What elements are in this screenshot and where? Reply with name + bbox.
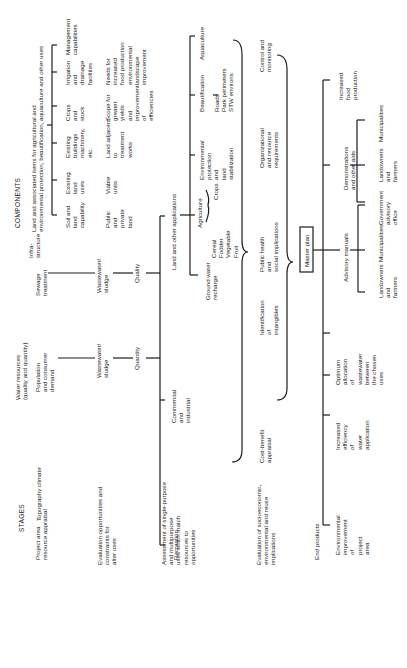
beautification-list: Roads Park perimeters STW environs [213,68,235,112]
end-increased-efficiency: Increased efficiency of water applicatio… [334,420,370,450]
advisory-child: Landowners and farmers [377,264,399,298]
agriculture: Agriculture [196,198,203,228]
quantity: Quantity [133,347,140,370]
land-associated-items: Land and associated items for agricultur… [30,46,44,232]
groundwater-recharge: Ground water recharge [204,263,218,301]
quality: Quality [133,264,140,283]
end-increased-food: Increased food production [337,71,359,100]
environmental-protection: Environmental protection and land stabil… [198,140,234,180]
organizational-requirements: Organizational and resource requirements [258,128,280,168]
aquaculture: Aquaculture [198,27,205,60]
wastewater-sludge-right: Wastewater/ sludge [95,259,109,293]
crops: Crops [212,183,219,200]
advisory-child: Municipalities [377,225,384,262]
land-item: Existing buildings machinery, etc. [64,128,93,158]
control-monitoring: Control and monitoring [258,40,272,72]
land-subitem: Public and private land [104,209,133,228]
infrastructure: Infra- structure [27,234,41,258]
commercial-industrial: Commercial and industrial [170,390,192,423]
demonstrations: Demonstrations and other aids [342,147,356,190]
components-header: COMPONENTS [14,178,21,228]
end-optimum-allocation: Optimum allocation of wastewater between… [334,354,384,385]
master-plan-box: Master plan [303,235,310,267]
stage-evaluation-implications: Evaluation of socioeconomic, environment… [255,485,277,565]
land-subitem: Viable units [104,177,118,194]
stage-evaluation-opportunities: Evaluation opportunities and constraints… [96,487,118,565]
beautification: Beautification [198,75,205,112]
population-demand: Population and consumer demand [34,353,56,392]
land-item: Existing land uses [64,172,86,194]
public-health: Public health and social implications [258,222,280,272]
advisory-manuals: Advisory manuals [342,233,349,282]
land-item: Management capabilities [64,19,78,55]
land-subitem: Needs for increased food production envi… [104,42,147,85]
end-environmental-improvement: Environmental improvement of project are… [334,515,370,555]
crops-list: Cereal Fodder Vegetable Fruit [210,230,239,258]
wastewater-sludge-left: Wastewater/ sludge [95,344,109,378]
stages-header: STAGES [18,504,25,532]
water-resources: Water resources (quality and quantity) [14,343,28,400]
identification-intangibles: Identification of intangibles [258,300,280,335]
demonstration-child: Municipalities [377,105,384,142]
land-subitem: Scope for greater yields and improvement… [104,85,154,121]
land-item: Soil and land capability [64,202,86,228]
land-other-applications: Land and other applications [170,194,177,270]
land-item: Irrigation and drainage facilities [64,61,93,85]
recreation: Recreation [172,530,179,560]
topography-climate: Topography climate [35,467,42,521]
land-subitem: Land adjacent to treatment works [104,119,133,158]
stage-end-products: End products [313,524,320,560]
sewage-treatment: Sewage treatment [34,270,48,296]
demonstration-child: Landowners and farmers [377,148,399,182]
land-item: Crops and stock [64,104,86,121]
cost-benefit-appraisal: Cost-benefit appraisal [258,430,272,463]
advisory-child: Government advisory office [377,191,399,225]
